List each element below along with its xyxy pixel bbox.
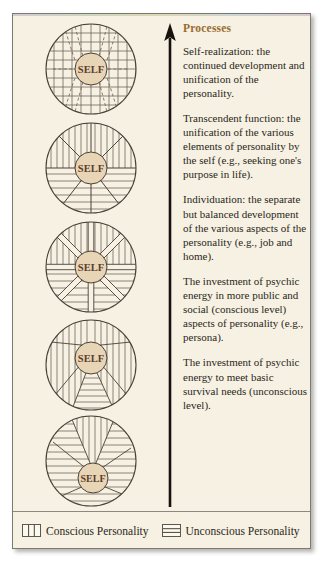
vertical-lines-swatch-icon — [22, 524, 41, 537]
legend: Conscious Personality Unconscious Person… — [13, 512, 312, 549]
figure-root: SELF — [0, 0, 331, 565]
diagram-stage-2-public-social: SELF — [17, 316, 165, 415]
diagram-svg: SELF — [31, 20, 151, 119]
self-label: SELF — [80, 473, 105, 484]
processes-heading: Processes — [183, 22, 309, 35]
processes-column: Processes Self-realization: the continue… — [183, 22, 309, 423]
legend-label-unconscious-personality: Unconscious Personality — [186, 525, 300, 537]
process-item-individuation: Individuation: the separate but balanced… — [183, 192, 309, 262]
process-item-transcendent-function: Transcendent function: the unification o… — [183, 111, 309, 181]
diagram-svg: SELF — [31, 316, 151, 415]
diagram-stage-3-individuation: SELF — [17, 218, 165, 317]
diagram-column: SELF — [17, 20, 165, 510]
diagram-stage-4-transcendent-function: SELF — [17, 119, 165, 218]
diagram-svg: SELF — [31, 119, 151, 218]
figure-plate: SELF — [12, 13, 311, 549]
arrow-icon — [159, 22, 181, 507]
horizontal-lines-swatch-icon — [162, 524, 181, 537]
self-label: SELF — [78, 64, 104, 75]
self-label: SELF — [78, 353, 104, 364]
self-label: SELF — [78, 163, 104, 174]
process-item-survival: The investment of psychic energy to meet… — [183, 355, 309, 411]
diagram-stage-1-survival: SELF — [17, 412, 165, 511]
legend-label-conscious-personality: Conscious Personality — [46, 525, 149, 537]
diagram-svg: SELF — [31, 218, 151, 317]
process-item-public-social: The investment of psychic energy in more… — [183, 274, 309, 344]
diagram-stage-5-self-realization: SELF — [17, 20, 165, 119]
self-label: SELF — [78, 262, 104, 273]
upward-progress-arrow — [159, 22, 181, 507]
figure-body: SELF — [13, 14, 312, 511]
legend-entry-conscious-personality: Conscious Personality — [22, 524, 149, 537]
diagram-svg: SELF — [31, 412, 151, 511]
legend-entry-unconscious-personality: Unconscious Personality — [162, 524, 300, 537]
process-item-self-realization: Self-realization: the continued developm… — [183, 44, 309, 100]
